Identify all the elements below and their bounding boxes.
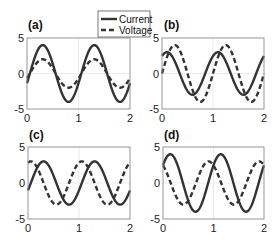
y-tick-label: -5 (14, 103, 24, 115)
x-tick-label: 1 (210, 112, 216, 124)
y-tick-label: 5 (18, 32, 24, 44)
y-tick-label: 0 (153, 68, 159, 80)
x-tick-label: 1 (75, 112, 81, 124)
y-tick-label: 5 (153, 32, 159, 44)
x-tick-label: 2 (127, 112, 133, 124)
x-tick-label: 0 (24, 112, 30, 124)
y-tick-label: 5 (154, 141, 160, 153)
panel-label: (d) (164, 128, 179, 142)
subplot-grid: -505012(a)-505012(b)-505012(c)-505012(d) (14, 18, 267, 234)
x-tick-label: 0 (160, 222, 166, 234)
x-tick-label: 1 (210, 222, 216, 234)
y-tick-label: 5 (19, 141, 25, 153)
y-tick-label: -5 (149, 103, 159, 115)
y-tick-label: -5 (15, 213, 25, 225)
legend: Current Voltage (98, 11, 153, 37)
panel-label: (c) (29, 128, 44, 142)
x-tick-label: 2 (261, 112, 267, 124)
panel-label: (b) (164, 18, 179, 32)
x-tick-label: 0 (159, 112, 165, 124)
x-tick-label: 2 (127, 222, 133, 234)
subplot-d: -505012(d) (150, 128, 267, 234)
x-tick-label: 2 (261, 222, 267, 234)
legend-voltage-label: Voltage (119, 25, 153, 36)
y-tick-label: -5 (150, 213, 160, 225)
subplot-b: -505012(b) (149, 18, 267, 124)
x-tick-label: 1 (76, 222, 82, 234)
y-tick-label: 0 (19, 177, 25, 189)
subplot-c: -505012(c) (15, 128, 133, 234)
panel-label: (a) (28, 18, 43, 32)
y-tick-label: 0 (18, 68, 24, 80)
legend-current-label: Current (119, 14, 153, 25)
y-tick-label: 0 (154, 177, 160, 189)
figure: -505012(a)-505012(b)-505012(c)-505012(d)… (0, 0, 279, 248)
x-tick-label: 0 (25, 222, 31, 234)
